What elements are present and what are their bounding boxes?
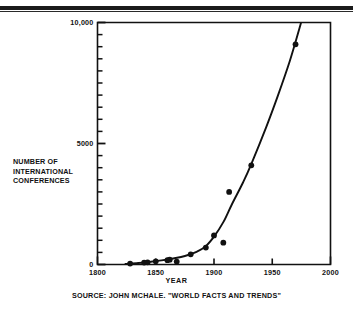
y-tick-label: 10,000 <box>46 18 94 27</box>
y-axis-title-line-2: INTERNATIONAL <box>13 167 95 177</box>
x-axis-title: YEAR <box>0 276 353 285</box>
y-tick-label: 0 <box>46 260 94 269</box>
source-caption: SOURCE: JOHN MCHALE. "WORLD FACTS AND TR… <box>0 291 353 300</box>
y-axis-title: NUMBER OF INTERNATIONAL CONFERENCES <box>13 157 95 186</box>
y-axis-title-line-1: NUMBER OF <box>13 157 95 167</box>
y-axis-title-line-3: CONFERENCES <box>13 176 95 186</box>
y-axis-ticks <box>98 23 106 265</box>
y-tick-label: 5000 <box>46 139 94 148</box>
trend-curve <box>125 13 303 264</box>
plot-frame <box>98 23 331 265</box>
data-point-markers <box>127 41 298 266</box>
chart-figure: 180018501900195020000500010,000 NUMBER O… <box>0 0 353 309</box>
